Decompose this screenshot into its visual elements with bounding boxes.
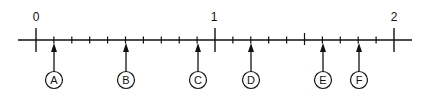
marker-d: D [243,43,260,89]
arrowhead-icon [320,43,326,52]
tick-marks [36,28,394,52]
arrowhead-icon [248,43,254,52]
marker-a: A [46,43,63,89]
marker-label-e: E [319,74,326,86]
tick-label-2: 2 [391,10,398,24]
marker-label-a: A [50,74,58,86]
marker-c: C [190,43,207,89]
marker-label-d: D [247,74,255,86]
arrowhead-icon [123,43,129,52]
marker-label-c: C [194,74,202,86]
marker-f: F [351,43,368,89]
tick-labels: 0 1 2 [33,10,398,24]
marker-label-f: F [356,74,363,86]
arrowhead-icon [195,43,201,52]
arrowhead-icon [356,43,362,52]
tick-label-0: 0 [33,10,40,24]
tick-label-1: 1 [211,10,218,24]
point-markers: A B C D E F [46,43,368,89]
marker-e: E [315,43,332,89]
marker-b: B [118,43,135,89]
arrowhead-icon [51,43,57,52]
number-line-diagram: 0 1 2 A B C D [0,0,429,98]
marker-label-b: B [122,74,129,86]
